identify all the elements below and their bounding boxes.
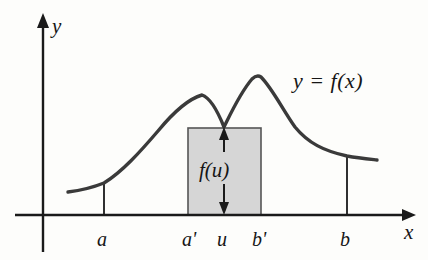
tick-label-b-prime: b' [252, 229, 266, 249]
tick-label-b: b [340, 229, 350, 249]
tick-label-u: u [217, 229, 227, 249]
tick-label-a: a [97, 229, 107, 249]
y-axis-arrowhead [37, 13, 49, 28]
figure-container: g y x y = f(x) f(u) a a' u b' b [0, 0, 428, 260]
graph-canvas [0, 0, 428, 260]
tick-label-a-prime: a' [182, 229, 196, 249]
y-axis-label: y [52, 16, 61, 37]
x-axis-label: x [404, 222, 413, 243]
curve-equation-label: y = f(x) [293, 70, 363, 92]
rectangle-height-label: f(u) [199, 160, 229, 181]
